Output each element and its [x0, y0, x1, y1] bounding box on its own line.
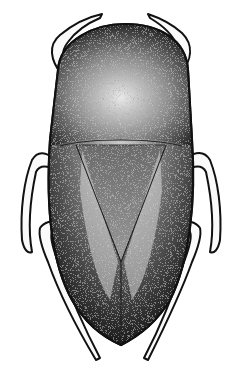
- insect-illustration: [0, 0, 238, 372]
- bug-drawing: [0, 0, 238, 372]
